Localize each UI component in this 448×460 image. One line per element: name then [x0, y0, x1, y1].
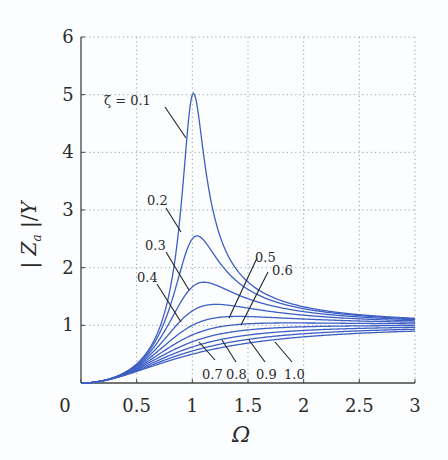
annotation-label: 0.8: [226, 367, 247, 382]
x-tick-label: 0.5: [122, 395, 151, 416]
annotation-label: 0.4: [137, 270, 158, 285]
annotation-label: ζ = 0.1: [104, 93, 151, 108]
y-tick-label: 5: [62, 84, 73, 105]
annotation-leader-line: [249, 340, 265, 362]
response-curves: [81, 93, 415, 383]
curve-zeta-0.7: [81, 326, 415, 383]
x-tick-label: 1: [187, 395, 198, 416]
annotation-leader-line: [166, 252, 189, 290]
curve-zeta-0.9: [81, 329, 415, 383]
y-tick-label: 4: [62, 141, 73, 162]
y-axis-title: | Za |/Y: [10, 180, 50, 290]
annotation-leader-line: [165, 107, 186, 138]
annotation-label: 0.7: [202, 367, 223, 382]
annotation-label: 0.2: [147, 193, 168, 208]
x-tick-label: 2.5: [345, 395, 374, 416]
annotation-leader-line: [157, 284, 181, 322]
y-tick-label: 3: [62, 199, 73, 220]
annotation-label: 1.0: [284, 367, 305, 382]
annotation-leader-line: [275, 342, 292, 362]
zeta-annotations: ζ = 0.10.20.30.40.50.60.70.80.91.0: [104, 93, 305, 382]
y-tick-label: 6: [62, 26, 73, 47]
annotation-label: 0.6: [272, 263, 293, 278]
annotation-label: 0.3: [145, 238, 166, 253]
annotation-label: 0.9: [256, 367, 277, 382]
x-tick-label: 0: [59, 395, 70, 416]
y-axis-label: | Za |/Y: [17, 201, 44, 268]
x-tick-label: 1.5: [234, 395, 263, 416]
annotation-leader-line: [199, 342, 215, 360]
annotation-leader-line: [222, 340, 236, 362]
y-tick-label: 1: [62, 314, 73, 335]
x-tick-label: 2: [298, 395, 309, 416]
x-tick-labels: 00.511.522.53: [59, 395, 420, 416]
y-tick-label: 2: [62, 257, 73, 278]
x-axis-title: Ω: [232, 422, 250, 447]
annotation-leader-line: [166, 208, 181, 232]
x-tick-label: 3: [409, 395, 420, 416]
chart-canvas: 00.511.522.53 123456 ζ = 0.10.20.30.40.5…: [0, 0, 448, 460]
y-tick-labels: 123456: [62, 26, 73, 335]
